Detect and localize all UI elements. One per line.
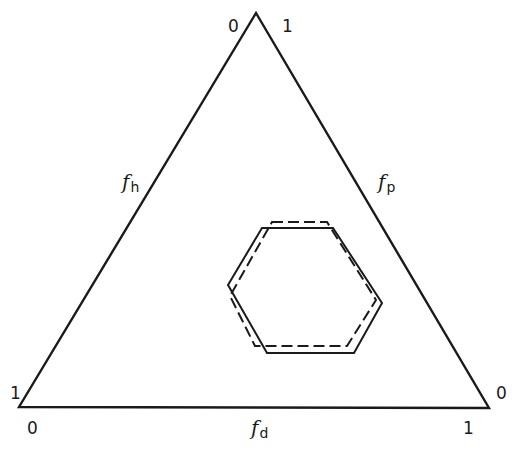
axis-subscript: h <box>130 179 139 195</box>
axis-subscript: p <box>386 179 395 195</box>
right-below-label: 1 <box>463 420 474 437</box>
top-left-label: 0 <box>228 18 239 35</box>
right-above-label: 0 <box>496 385 507 402</box>
left-above-label: 1 <box>10 385 21 402</box>
axis-label-fh: fh <box>122 172 139 192</box>
axis-label-fp: fp <box>378 172 395 192</box>
axis-symbol: f <box>122 170 129 194</box>
axis-symbol: f <box>251 416 258 440</box>
ternary-diagram <box>0 0 520 451</box>
axis-subscript: d <box>259 425 268 441</box>
top-right-label: 1 <box>282 18 293 35</box>
left-below-label: 0 <box>27 420 38 437</box>
ternary-triangle <box>19 13 489 408</box>
axis-label-fd: fd <box>251 418 268 438</box>
axis-symbol: f <box>378 170 385 194</box>
solid-hexagon <box>228 228 382 353</box>
